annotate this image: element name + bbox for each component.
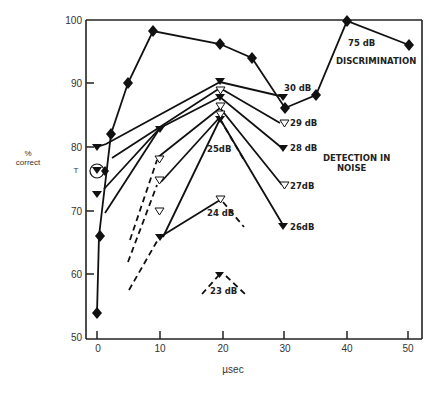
x-tick-30: 30 (279, 343, 291, 354)
label-25db: 25dB (207, 144, 231, 154)
y-tick-100: 100 (65, 15, 82, 26)
detection-lines (97, 82, 283, 237)
label-detection-2: NOISE (337, 163, 367, 173)
y-axis-label-word: correct (16, 158, 41, 167)
label-30db: 30 dB (284, 83, 311, 93)
x-tick-10: 10 (154, 343, 166, 354)
y-tick-70: 70 (71, 206, 83, 217)
chart: 100 90 80 70 60 50 0 10 20 30 40 50 % co… (0, 0, 440, 394)
label-27db: 27dB (290, 181, 314, 191)
y-tick-80: 80 (71, 142, 83, 153)
label-26db: 26dB (290, 222, 314, 232)
label-29db: 29 dB (290, 118, 317, 128)
label-23db: 23 dB (210, 286, 237, 296)
x-axis (97, 331, 408, 339)
x-axis-label: µsec (222, 364, 243, 375)
x-tick-50: 50 (402, 343, 414, 354)
label-24db: 24 dB (207, 208, 234, 218)
y-axis-label-pct: % (24, 149, 31, 158)
label-discrimination: DISCRIMINATION (336, 56, 416, 66)
small-mark: T (74, 166, 79, 175)
x-tick-20: 20 (217, 343, 229, 354)
x-tick-40: 40 (341, 343, 353, 354)
y-tick-50: 50 (71, 332, 83, 343)
label-75db: 75 dB (348, 38, 375, 48)
y-tick-60: 60 (71, 269, 83, 280)
x-tick-0: 0 (95, 343, 101, 354)
y-axis (86, 83, 94, 274)
plot-frame (86, 20, 422, 339)
y-tick-90: 90 (71, 78, 83, 89)
label-detection-1: DETECTION IN (323, 153, 390, 163)
label-28db: 28 dB (290, 143, 317, 153)
